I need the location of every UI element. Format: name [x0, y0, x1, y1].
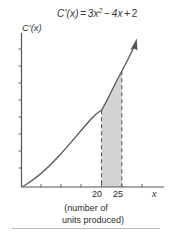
caption-line-1: (number of — [0, 203, 172, 215]
x-axis-label: x — [152, 189, 157, 199]
bottom-divider — [12, 228, 160, 229]
shaded-region — [102, 71, 122, 187]
caption-line-2: units produced) — [0, 215, 172, 227]
figure-container: C'(x)=3x2−4x+2 C'(x) — [0, 0, 172, 240]
curve-arrowhead — [130, 39, 137, 51]
x-tick-label-20: 20 — [92, 189, 102, 199]
x-tick-label-25: 25 — [113, 189, 123, 199]
axis-caption: (number of units produced) — [0, 203, 172, 226]
